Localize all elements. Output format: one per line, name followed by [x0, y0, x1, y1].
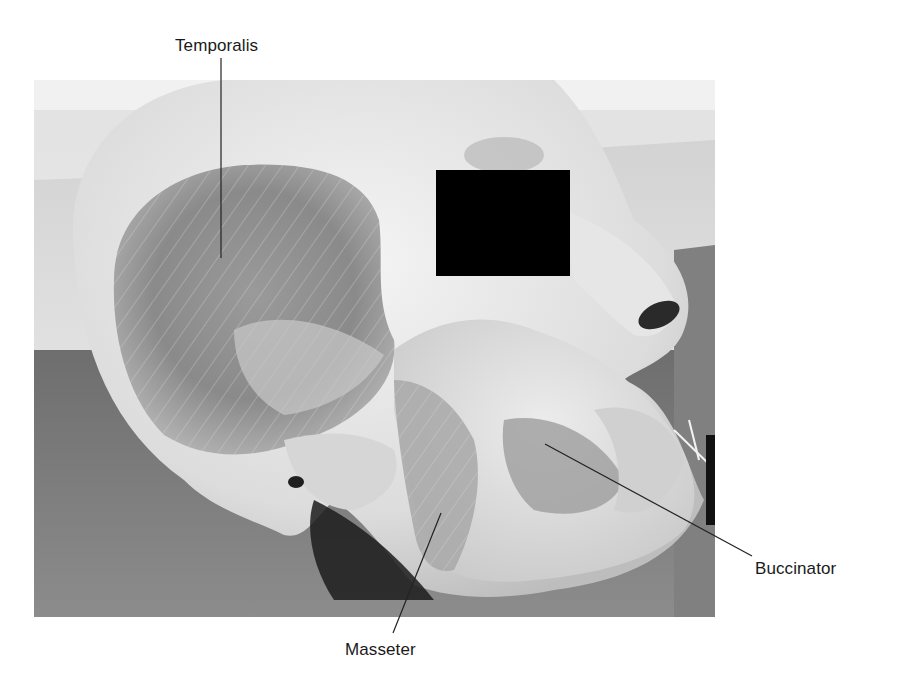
redaction-box: [436, 170, 570, 276]
label-masseter: Masseter: [345, 641, 416, 658]
label-buccinator: Buccinator: [755, 560, 836, 577]
label-temporalis: Temporalis: [175, 37, 258, 54]
dissection-photo: [34, 80, 715, 617]
anatomy-figure: Temporalis Masseter Buccinator: [0, 0, 913, 679]
